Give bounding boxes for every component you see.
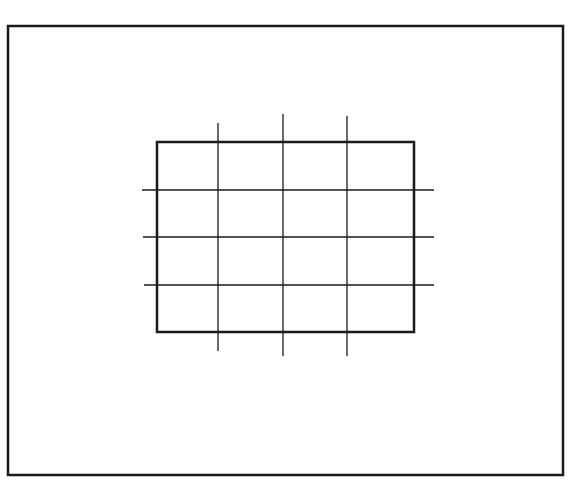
vertical-grid-lines (218, 114, 347, 356)
horizontal-grid-lines (142, 190, 434, 285)
grid-diagram (0, 0, 568, 485)
outer-frame (8, 26, 563, 475)
